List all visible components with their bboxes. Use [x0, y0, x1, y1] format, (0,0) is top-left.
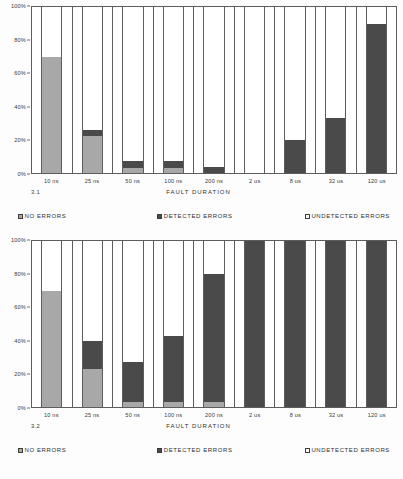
detected-errors-swatch [157, 214, 162, 219]
y-tick-label: 60% [14, 304, 26, 310]
bar-slot [32, 7, 72, 173]
bar-segment-undetected-errors [326, 7, 345, 118]
stacked-bar[interactable] [366, 241, 387, 407]
legend-item[interactable]: UNDETECTED ERRORS [289, 213, 395, 219]
legend-item[interactable]: NO ERRORS [8, 213, 157, 219]
bar-slot [112, 241, 153, 407]
x-tick-label: 50 ns [112, 408, 153, 421]
plot-frame-3-1 [31, 6, 397, 174]
legend-item[interactable]: DETECTED ERRORS [157, 213, 289, 219]
bar-slot [356, 241, 397, 407]
bar-segment-undetected-errors [285, 7, 304, 140]
bar-segment-detected-errors [83, 341, 102, 369]
x-tick-label: 8 us [275, 174, 316, 187]
bar-slot [315, 241, 356, 407]
y-tick-label: 80% [14, 271, 26, 277]
caption-row-3-2: 3.2 FAULT DURATION [0, 421, 397, 435]
bar-segment-undetected-errors [204, 7, 223, 167]
bar-segment-undetected-errors [42, 241, 61, 291]
bar-segment-undetected-errors [42, 7, 61, 57]
y-tick-label: 40% [14, 104, 26, 110]
bar-segment-undetected-errors [83, 7, 102, 130]
x-tick-label: 2 us [234, 174, 275, 187]
bar-segment-no-errors [204, 402, 223, 407]
bar-segment-detected-errors [326, 118, 345, 173]
y-axis-3-1: 0%20%40%60%80%100% [0, 6, 30, 174]
stacked-bar[interactable] [325, 7, 346, 173]
legend-label: UNDETECTED ERRORS [311, 447, 390, 453]
bar-segment-detected-errors [326, 241, 345, 407]
y-tick-mark [27, 174, 30, 175]
bar-slot [315, 7, 356, 173]
bar-segment-no-errors [42, 291, 61, 407]
bar-slot [274, 241, 315, 407]
stacked-bar[interactable] [284, 241, 305, 407]
bar-segment-undetected-errors [164, 241, 183, 336]
bar-segment-detected-errors [285, 140, 304, 173]
stacked-bar[interactable] [284, 7, 305, 173]
bar-segment-detected-errors [245, 241, 264, 407]
x-tick-label: 25 ns [72, 408, 113, 421]
bar-segment-no-errors [123, 168, 142, 173]
stacked-bar[interactable] [41, 241, 62, 407]
bar-segment-detected-errors [285, 241, 304, 407]
legend-3-2: NO ERRORSDETECTED ERRORSUNDETECTED ERROR… [8, 442, 395, 458]
stacked-bar[interactable] [203, 241, 224, 407]
stacked-bar[interactable] [244, 7, 265, 173]
bar-segment-detected-errors [204, 167, 223, 173]
stacked-bar[interactable] [82, 7, 103, 173]
bar-segment-no-errors [164, 168, 183, 173]
bar-segment-detected-errors [367, 24, 386, 173]
legend-label: DETECTED ERRORS [164, 447, 233, 453]
y-tick-label: 20% [14, 137, 26, 143]
stacked-bar[interactable] [163, 7, 184, 173]
stacked-bar[interactable] [163, 241, 184, 407]
y-tick-mark [27, 240, 30, 241]
stacked-bar[interactable] [82, 241, 103, 407]
x-tick-label: 10 ns [31, 174, 72, 187]
bar-segment-detected-errors [367, 241, 386, 407]
bar-segment-undetected-errors [204, 241, 223, 274]
y-tick-mark [27, 307, 30, 308]
x-tick-label: 25 ns [72, 174, 113, 187]
y-tick-mark [27, 273, 30, 274]
legend-item[interactable]: DETECTED ERRORS [157, 447, 289, 453]
x-axis-3-2: 10 ns25 ns50 ns100 ns200 ns2 us8 us32 us… [31, 408, 397, 421]
bar-segment-detected-errors [204, 274, 223, 402]
stacked-bar[interactable] [122, 7, 143, 173]
plot-area-3-2: 0%20%40%60%80%100% [0, 240, 397, 408]
stacked-bar[interactable] [41, 7, 62, 173]
figure-page: 0%20%40%60%80%100% 10 ns25 ns50 ns100 ns… [0, 0, 403, 479]
undetected-errors-swatch [305, 214, 310, 219]
stacked-bar[interactable] [366, 7, 387, 173]
y-tick-label: 0% [18, 171, 27, 177]
legend-item[interactable]: NO ERRORS [8, 447, 157, 453]
bar-segment-undetected-errors [123, 241, 142, 362]
bar-slot [153, 7, 194, 173]
figure-3-2: 0%20%40%60%80%100% 10 ns25 ns50 ns100 ns… [0, 240, 403, 476]
x-tick-label: 32 us [316, 408, 357, 421]
stacked-bar[interactable] [325, 241, 346, 407]
x-tick-label: 100 ns [153, 408, 194, 421]
x-tick-label: 100 ns [153, 174, 194, 187]
bar-slot [356, 7, 397, 173]
bar-slot [112, 7, 153, 173]
stacked-bar[interactable] [244, 241, 265, 407]
y-tick-mark [27, 39, 30, 40]
bar-segment-no-errors [83, 369, 102, 407]
legend-item[interactable]: UNDETECTED ERRORS [289, 447, 395, 453]
stacked-bar[interactable] [122, 241, 143, 407]
y-tick-mark [27, 6, 30, 7]
y-tick-mark [27, 73, 30, 74]
figure-3-1: 0%20%40%60%80%100% 10 ns25 ns50 ns100 ns… [0, 6, 403, 238]
legend-3-1: NO ERRORSDETECTED ERRORSUNDETECTED ERROR… [8, 208, 395, 224]
y-tick-label: 0% [18, 405, 27, 411]
no-errors-swatch [18, 214, 23, 219]
stacked-bar[interactable] [203, 7, 224, 173]
undetected-errors-swatch [305, 448, 310, 453]
bar-segment-undetected-errors [123, 7, 142, 161]
x-tick-label: 120 us [356, 174, 397, 187]
bar-segment-no-errors [123, 402, 142, 407]
no-errors-swatch [18, 448, 23, 453]
bar-slot [274, 7, 315, 173]
